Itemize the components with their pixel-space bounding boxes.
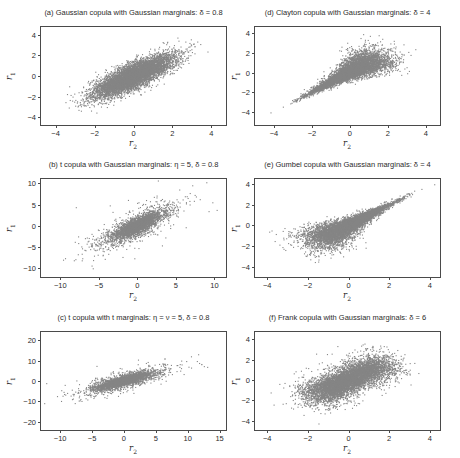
- x-tick-label: −2: [90, 129, 99, 138]
- subplot-b-plot-area: −10−50510−10−50510: [40, 178, 227, 278]
- y-tick-label: −10: [23, 397, 36, 406]
- y-tick-label: −10: [23, 264, 36, 273]
- y-tick-mark: [38, 205, 41, 206]
- x-tick-mark: [430, 430, 431, 433]
- y-tick-label: −2: [27, 92, 36, 101]
- y-tick-label: 4: [246, 180, 250, 189]
- subplot-b: (b) t copula with Gaussian marginals: η …: [0, 152, 230, 305]
- y-tick-label: 20: [28, 336, 36, 345]
- x-tick-mark: [92, 430, 93, 433]
- x-tick-label: 2: [170, 129, 174, 138]
- y-tick-mark: [38, 361, 41, 362]
- y-tick-mark: [38, 268, 41, 269]
- subplot-c-x-axis-label: r2: [129, 443, 137, 455]
- subplot-f-x-axis-label: r2: [343, 443, 351, 455]
- copula-scatter-figure: (a) Gaussian copula with Gaussian margin…: [0, 0, 460, 458]
- x-tick-mark: [60, 430, 61, 433]
- x-tick-mark: [389, 430, 390, 433]
- y-tick-label: 0: [32, 377, 36, 386]
- x-tick-mark: [426, 125, 427, 128]
- x-tick-label: 4: [428, 434, 432, 443]
- subplot-a: (a) Gaussian copula with Gaussian margin…: [0, 0, 230, 153]
- y-tick-mark: [252, 112, 255, 113]
- x-tick-mark: [156, 430, 157, 433]
- y-tick-mark: [252, 380, 255, 381]
- y-tick-label: 4: [246, 28, 250, 37]
- subplot-c-y-axis-label: r1: [4, 377, 16, 385]
- x-tick-label: 10: [184, 434, 192, 443]
- y-tick-label: −2: [241, 242, 250, 251]
- y-tick-mark: [252, 73, 255, 74]
- subplot-e-x-axis-label: r2: [343, 290, 351, 302]
- x-tick-label: −5: [95, 281, 104, 290]
- x-tick-label: 5: [174, 281, 178, 290]
- x-tick-label: −10: [54, 434, 67, 443]
- x-tick-mark: [349, 277, 350, 280]
- y-tick-label: 2: [246, 200, 250, 209]
- y-tick-mark: [252, 184, 255, 185]
- subplot-f-title: (f) Frank copula with Gaussian marginals…: [254, 313, 441, 323]
- x-tick-mark: [267, 430, 268, 433]
- subplot-a-plot-area: −4−2024−4−2024: [40, 26, 227, 126]
- y-tick-label: −4: [241, 108, 250, 117]
- x-tick-label: −2: [304, 281, 313, 290]
- y-tick-mark: [38, 35, 41, 36]
- x-tick-mark: [211, 125, 212, 128]
- x-tick-mark: [308, 277, 309, 280]
- y-tick-label: 10: [28, 356, 36, 365]
- y-tick-mark: [252, 246, 255, 247]
- x-tick-mark: [308, 430, 309, 433]
- x-tick-mark: [388, 125, 389, 128]
- y-tick-mark: [38, 55, 41, 56]
- subplot-b-scatter-canvas: [41, 179, 226, 277]
- subplot-d-y-axis-label: r1: [229, 72, 241, 80]
- x-tick-label: −4: [51, 129, 60, 138]
- y-tick-label: 10: [28, 179, 36, 188]
- y-tick-label: 0: [246, 221, 250, 230]
- y-tick-mark: [252, 33, 255, 34]
- x-tick-label: 0: [131, 129, 135, 138]
- x-tick-mark: [188, 430, 189, 433]
- y-tick-label: 0: [32, 72, 36, 81]
- x-tick-label: 2: [387, 281, 391, 290]
- x-tick-mark: [430, 277, 431, 280]
- y-tick-label: −2: [241, 396, 250, 405]
- y-tick-mark: [252, 421, 255, 422]
- x-tick-mark: [220, 430, 221, 433]
- y-tick-mark: [252, 53, 255, 54]
- y-tick-label: 4: [246, 335, 250, 344]
- y-tick-mark: [252, 225, 255, 226]
- subplot-a-x-axis-label: r2: [129, 138, 137, 150]
- y-tick-label: 2: [246, 355, 250, 364]
- y-tick-label: 5: [32, 200, 36, 209]
- y-tick-mark: [252, 339, 255, 340]
- subplot-a-scatter-canvas: [41, 27, 226, 125]
- x-tick-label: 15: [215, 434, 223, 443]
- subplot-d-plot-area: −4−2024−4−2024: [254, 26, 441, 126]
- x-tick-mark: [214, 277, 215, 280]
- x-tick-label: −2: [304, 434, 313, 443]
- y-tick-mark: [38, 247, 41, 248]
- x-tick-label: 2: [387, 434, 391, 443]
- y-tick-mark: [38, 340, 41, 341]
- y-tick-mark: [38, 401, 41, 402]
- x-tick-label: −4: [263, 434, 272, 443]
- subplot-a-title: (a) Gaussian copula with Gaussian margin…: [40, 8, 227, 18]
- x-tick-label: 4: [428, 281, 432, 290]
- y-tick-mark: [38, 183, 41, 184]
- subplot-c-scatter-canvas: [41, 332, 226, 430]
- x-tick-label: 0: [346, 434, 350, 443]
- y-tick-label: 0: [246, 68, 250, 77]
- subplot-c-title: (c) t copula with t marginals: η = ν = 5…: [40, 313, 227, 323]
- y-tick-mark: [38, 76, 41, 77]
- x-tick-mark: [267, 277, 268, 280]
- x-tick-label: −4: [263, 281, 272, 290]
- y-tick-label: −4: [241, 262, 250, 271]
- subplot-f-scatter-canvas: [255, 332, 440, 430]
- subplot-a-y-axis-label: r1: [4, 72, 16, 80]
- x-tick-label: 0: [122, 434, 126, 443]
- subplot-f-y-axis-label: r1: [229, 377, 241, 385]
- x-tick-mark: [134, 125, 135, 128]
- y-tick-label: 0: [32, 221, 36, 230]
- y-tick-label: −4: [241, 416, 250, 425]
